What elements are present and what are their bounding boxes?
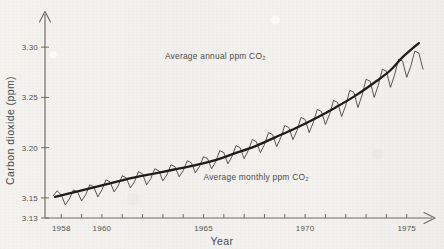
y-axis-group: 3.133.153.203.253.30 Carbon dioxide (ppm… xyxy=(4,12,51,224)
x-axis-title: Year xyxy=(211,235,234,247)
x-axis-ticks xyxy=(61,214,406,218)
x-tick-label-1965: 1965 xyxy=(194,224,213,233)
annotation-label-0: Average annual ppm CO₂ xyxy=(165,51,266,61)
annotation-label-1: Average monthly ppm CO₂ xyxy=(204,172,309,182)
co2-keeling-curve-chart: 3.133.153.203.253.30 Carbon dioxide (ppm… xyxy=(0,0,444,249)
y-tick-label-3.13: 3.13 xyxy=(22,214,39,223)
y-tick-label-3.15: 3.15 xyxy=(22,194,39,203)
monthly-co2-series-line xyxy=(53,51,423,205)
y-tick-label-3.20: 3.20 xyxy=(22,144,39,153)
x-tick-label-1958: 1958 xyxy=(52,224,71,233)
x-tick-label-1975: 1975 xyxy=(397,224,416,233)
x-tick-label-1960: 1960 xyxy=(93,224,112,233)
x-axis-group: 19581960196519701975 Year xyxy=(45,213,435,248)
y-axis-title: Carbon dioxide (ppm) xyxy=(4,76,16,185)
x-tick-label-1970: 1970 xyxy=(296,224,315,233)
y-tick-label-3.30: 3.30 xyxy=(22,43,39,52)
y-tick-label-3.25: 3.25 xyxy=(22,93,39,102)
y-axis-tick-labels: 3.133.153.203.253.30 xyxy=(22,43,39,223)
x-axis-tick-labels: 19581960196519701975 xyxy=(52,224,416,233)
